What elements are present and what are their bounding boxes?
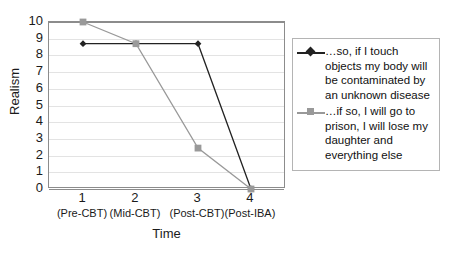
x-axis-tick-labels: 1(Pre-CBT)2(Mid-CBT)3(Post-CBT)4(Post-IB…	[48, 190, 285, 230]
y-tick-label: 4	[18, 114, 43, 127]
legend-entry-1: …so, if I touch objects my body will be …	[297, 44, 435, 102]
y-tick-label: 3	[18, 131, 43, 144]
y-tick-label: 8	[18, 47, 43, 60]
series-overlay	[49, 22, 286, 189]
legend-key-diamond-icon	[297, 45, 325, 60]
y-tick-label: 1	[18, 164, 43, 177]
plot-area	[48, 21, 285, 188]
y-tick-label: 0	[18, 181, 43, 194]
y-axis-tick-labels: 109876543210	[18, 21, 43, 188]
y-tick-label: 2	[18, 148, 43, 161]
x-axis-title: Time	[48, 226, 285, 241]
series-2	[80, 19, 255, 193]
data-point-marker	[80, 19, 87, 26]
y-tick-label: 9	[18, 31, 43, 44]
data-point-marker	[80, 40, 87, 47]
series-line	[83, 22, 251, 189]
x-tick-4: 4(Post-IBA)	[210, 190, 290, 221]
data-point-marker	[195, 145, 202, 152]
y-tick-label: 10	[18, 14, 43, 27]
y-tick-label: 5	[18, 98, 43, 111]
y-tick-label: 6	[18, 81, 43, 94]
series-line	[83, 44, 251, 189]
legend-label: …so, if I touch objects my body will be …	[325, 44, 435, 102]
series-1	[80, 40, 255, 192]
data-point-marker	[195, 40, 202, 47]
x-tick-sublabel: (Post-IBA)	[210, 206, 290, 221]
legend-label: …if so, I will go to prison, I will lose…	[325, 104, 435, 162]
chart-legend: …so, if I touch objects my body will be …	[292, 38, 440, 171]
legend-key-square-icon	[297, 105, 325, 120]
x-tick-number: 4	[210, 190, 290, 206]
y-tick-label: 7	[18, 64, 43, 77]
legend-key-marker	[306, 47, 316, 57]
legend-entry-2: …if so, I will go to prison, I will lose…	[297, 104, 435, 162]
chart-screenshot: Realism 109876543210 1(Pre-CBT)2(Mid-CBT…	[0, 0, 450, 253]
legend-key-marker	[307, 108, 314, 115]
data-point-marker	[133, 40, 140, 47]
